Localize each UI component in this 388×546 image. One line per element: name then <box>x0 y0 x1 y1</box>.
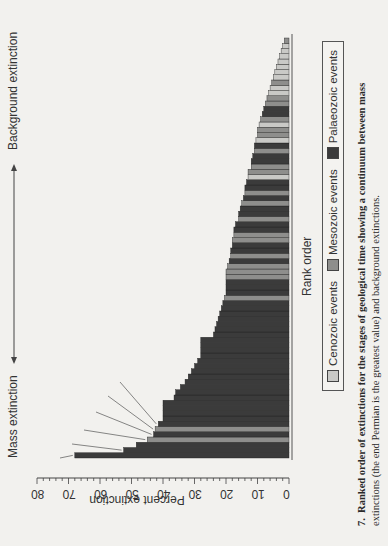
bar <box>246 180 289 185</box>
bar <box>154 432 289 437</box>
legend: Cenozoic events Mesozoic events Palaeozo… <box>322 41 344 391</box>
bar <box>258 127 290 132</box>
bar <box>163 406 289 411</box>
bar <box>191 369 289 374</box>
bar <box>243 196 289 201</box>
bar <box>248 175 289 180</box>
bar <box>239 211 289 216</box>
bar <box>228 264 289 269</box>
bar <box>234 227 289 232</box>
bar <box>275 70 289 75</box>
bar <box>155 427 289 432</box>
bar <box>198 358 289 363</box>
bar <box>232 238 289 243</box>
bar <box>242 201 289 206</box>
bar <box>201 348 289 353</box>
bar <box>281 49 289 54</box>
bar <box>158 421 289 426</box>
bar <box>201 353 289 358</box>
bar <box>231 253 289 258</box>
bar <box>220 311 289 316</box>
bar <box>201 337 289 342</box>
bar <box>163 400 289 405</box>
bar <box>226 269 289 274</box>
y-tick-label: 0 <box>283 487 290 501</box>
bar <box>256 138 289 143</box>
y-tick-label: 80 <box>31 487 45 501</box>
bar <box>245 185 289 190</box>
bar <box>229 259 289 264</box>
bar <box>136 442 289 447</box>
bar <box>176 390 289 395</box>
rotated-figure: Mass extinction Background extinction 01… <box>0 0 388 546</box>
palaeozoic-swatch-icon <box>327 147 339 159</box>
bar <box>276 64 289 69</box>
bar <box>226 290 289 295</box>
bar <box>264 106 289 111</box>
bar <box>235 222 289 227</box>
cenozoic-swatch-icon <box>327 370 339 382</box>
leader-line <box>84 430 145 440</box>
bar <box>270 85 289 90</box>
y-tick-label: 20 <box>220 487 234 501</box>
bar <box>278 59 289 64</box>
bar <box>213 332 289 337</box>
bar <box>217 322 289 327</box>
legend-palaeozoic: Palaeozoic events <box>327 50 339 159</box>
bar <box>253 154 289 159</box>
legend-cenozoic: Cenozoic events <box>327 281 339 382</box>
bar <box>147 437 289 442</box>
bar <box>201 343 289 348</box>
bar <box>273 75 289 80</box>
bar <box>272 80 289 85</box>
bar <box>267 96 289 101</box>
leader-line <box>96 412 152 434</box>
bar <box>261 117 289 122</box>
bar <box>284 38 289 43</box>
bar <box>224 295 289 300</box>
bar <box>254 143 289 148</box>
bar <box>259 122 289 127</box>
figure-caption-line1: 7. Ranked order of extinctions for the s… <box>356 83 367 526</box>
leader-line <box>60 455 73 458</box>
y-tick-label: 70 <box>62 487 76 501</box>
bar <box>226 285 289 290</box>
bar <box>163 411 289 416</box>
bar <box>251 159 289 164</box>
bar <box>215 327 289 332</box>
bar <box>283 43 289 48</box>
bar <box>251 164 289 169</box>
leader-line <box>72 444 122 450</box>
bar <box>248 169 289 174</box>
bar <box>254 148 289 153</box>
y-tick-label: 10 <box>251 487 265 501</box>
bar <box>280 54 289 59</box>
bar <box>221 306 289 311</box>
bar <box>124 448 289 453</box>
bar <box>163 416 289 421</box>
bar <box>265 101 289 106</box>
bar <box>240 206 289 211</box>
bar <box>232 243 289 248</box>
leader-line <box>120 382 156 424</box>
bar <box>185 379 289 384</box>
mesozoic-swatch-icon <box>327 259 339 271</box>
bar <box>226 280 289 285</box>
bar <box>195 364 290 369</box>
y-axis-label: Percent extinction <box>77 493 197 507</box>
bar <box>245 190 289 195</box>
bar <box>174 395 289 400</box>
bar <box>223 301 289 306</box>
bar <box>258 133 290 138</box>
bar <box>188 374 289 379</box>
bar <box>75 453 289 458</box>
bar <box>239 217 289 222</box>
bar <box>234 232 289 237</box>
bar <box>262 112 289 117</box>
bar <box>218 316 289 321</box>
x-axis-label: Rank order <box>300 237 314 296</box>
legend-mesozoic: Mesozoic events <box>327 169 339 271</box>
bar <box>231 248 289 253</box>
bar <box>180 385 289 390</box>
bar <box>226 274 289 279</box>
